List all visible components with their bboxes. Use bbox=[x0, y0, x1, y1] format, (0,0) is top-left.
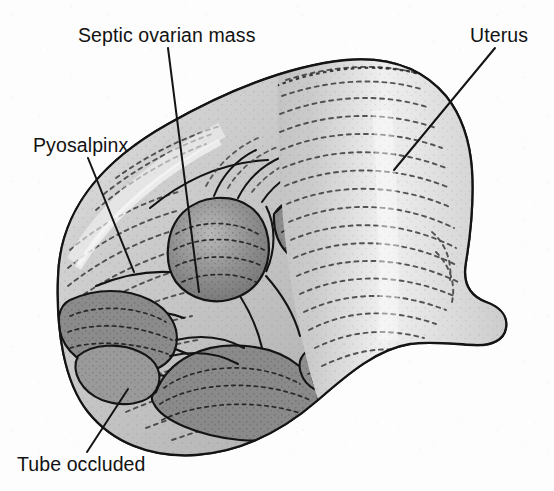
anatomical-illustration bbox=[0, 0, 554, 491]
label-tube-occluded: Tube occluded bbox=[17, 455, 146, 475]
organ-mass bbox=[40, 40, 540, 470]
figure-page: Septic ovarian mass Uterus Pyosalpinx Tu… bbox=[0, 0, 554, 491]
label-septic-ovarian-mass: Septic ovarian mass bbox=[78, 26, 255, 46]
label-uterus: Uterus bbox=[470, 26, 528, 46]
label-pyosalpinx: Pyosalpinx bbox=[33, 136, 128, 156]
